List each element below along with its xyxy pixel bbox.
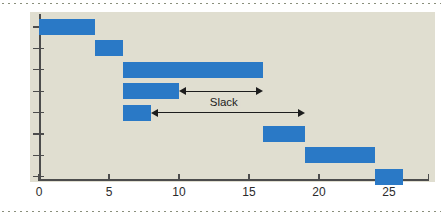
gantt-bar-A8	[375, 169, 403, 185]
slack-arrow-head-left-1	[179, 87, 186, 95]
x-tick-15	[248, 174, 249, 181]
slack-arrow-head-right-2	[298, 109, 305, 117]
slack-arrow-line-2	[156, 112, 300, 113]
gantt-bar-A1	[39, 19, 95, 35]
x-tick-label-15: 15	[242, 185, 255, 199]
x-tick-label-5: 5	[106, 185, 113, 199]
x-tick-label-10: 10	[172, 185, 185, 199]
x-axis-end-tick	[428, 174, 429, 181]
x-tick-10	[178, 174, 179, 181]
gantt-chart-figure: A1A2A3A4A5A6A7A8 0510152025 Slack	[0, 0, 441, 215]
bottom-dotted-rule	[0, 210, 441, 213]
gantt-bar-A7	[305, 147, 375, 163]
y-tick-A5	[33, 112, 44, 113]
x-tick-label-20: 20	[312, 185, 325, 199]
slack-label: Slack	[207, 96, 241, 108]
x-axis-line	[39, 179, 429, 181]
gantt-bar-A3	[123, 62, 263, 78]
slack-arrow-head-right-1	[256, 87, 263, 95]
y-tick-A6	[33, 133, 44, 134]
x-tick-5	[108, 174, 109, 181]
gantt-bar-A5	[123, 105, 151, 121]
y-tick-A3	[33, 69, 44, 70]
top-dotted-rule	[0, 2, 441, 5]
x-tick-label-0: 0	[36, 185, 43, 199]
gantt-bar-A6	[263, 126, 305, 142]
slack-arrow-head-left-2	[151, 109, 158, 117]
gantt-bar-A2	[95, 40, 123, 56]
slack-arrow-line-1	[184, 91, 258, 92]
y-tick-A2	[33, 48, 44, 49]
x-tick-0	[38, 174, 39, 181]
y-tick-A4	[33, 91, 44, 92]
gantt-bar-A4	[123, 83, 179, 99]
x-tick-label-25: 25	[382, 185, 395, 199]
y-tick-A7	[33, 155, 44, 156]
x-tick-20	[318, 174, 319, 181]
